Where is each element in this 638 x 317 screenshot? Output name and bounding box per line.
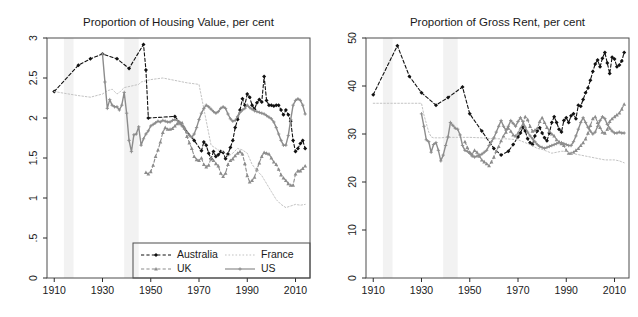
legend-entry-australia[interactable]: Australia xyxy=(141,248,218,260)
x-tick-label: 1930 xyxy=(91,284,115,296)
y-tick-label: 50 xyxy=(346,32,358,44)
chart-legend: AustraliaFranceUKUS xyxy=(133,243,310,278)
shaded-bands xyxy=(383,38,458,278)
y-tick-label: 2.5 xyxy=(27,71,39,86)
y-axis: 0.511.522.53 xyxy=(27,35,47,281)
series-australia xyxy=(371,44,626,157)
y-tick-label: 3 xyxy=(27,35,39,41)
legend-entry-france[interactable]: France xyxy=(225,248,294,260)
shaded-bands xyxy=(64,38,139,278)
series-markers xyxy=(371,44,626,157)
chart-panel-housing-value: Proportion of Housing Value, per cent0.5… xyxy=(0,0,319,317)
x-tick-label: 1930 xyxy=(410,284,434,296)
series-line xyxy=(54,44,305,158)
x-tick-label: 2010 xyxy=(603,284,627,296)
y-tick-label: 20 xyxy=(346,176,358,188)
series-markers xyxy=(463,102,626,167)
plot-frame xyxy=(366,38,629,278)
y-tick-label: 1 xyxy=(27,195,39,201)
y-tick-label: 10 xyxy=(346,224,358,236)
plot-area xyxy=(52,42,307,207)
legend-entry-us[interactable]: US xyxy=(225,262,276,274)
x-tick-label: 1990 xyxy=(555,284,579,296)
figure-container: Proportion of Housing Value, per cent0.5… xyxy=(0,0,638,317)
y-tick-label: 40 xyxy=(346,80,358,92)
series-line xyxy=(54,78,305,208)
plot-area xyxy=(371,44,626,168)
x-axis: 191019301950197019902010 xyxy=(362,278,627,296)
y-tick-label: 1.5 xyxy=(27,151,39,166)
legend-label: US xyxy=(261,262,276,274)
legend-label: France xyxy=(261,248,294,260)
shaded-band-wwi xyxy=(64,38,74,278)
series-france xyxy=(373,103,624,163)
chart-panel-gross-rent: Proportion of Gross Rent, per cent010203… xyxy=(319,0,638,317)
chart-svg-housing-value: Proportion of Housing Value, per cent0.5… xyxy=(0,0,319,317)
x-tick-label: 2010 xyxy=(284,284,308,296)
chart-title: Proportion of Gross Rent, per cent xyxy=(410,16,586,28)
y-axis: 01020304050 xyxy=(346,32,366,281)
chart-svg-gross-rent: Proportion of Gross Rent, per cent010203… xyxy=(319,0,638,317)
y-tick-label: 30 xyxy=(346,128,358,140)
shaded-band-wwii xyxy=(443,38,457,278)
series-uk xyxy=(463,102,626,167)
legend-label: Australia xyxy=(177,248,218,260)
x-tick-label: 1970 xyxy=(187,284,211,296)
x-tick-label: 1990 xyxy=(236,284,260,296)
x-tick-label: 1950 xyxy=(458,284,482,296)
series-line xyxy=(373,103,624,163)
y-tick-label: 0 xyxy=(346,275,358,281)
shaded-band-wwi xyxy=(383,38,393,278)
shaded-band-wwii xyxy=(124,38,138,278)
x-tick-label: 1970 xyxy=(506,284,530,296)
legend-entry-uk[interactable]: UK xyxy=(141,262,192,274)
y-tick-label: .5 xyxy=(27,233,39,242)
series-france xyxy=(54,78,305,208)
chart-title: Proportion of Housing Value, per cent xyxy=(83,16,275,28)
series-australia xyxy=(52,42,307,160)
x-tick-label: 1950 xyxy=(139,284,163,296)
x-axis: 191019301950197019902010 xyxy=(43,278,308,296)
series-line xyxy=(465,104,624,165)
legend-label: UK xyxy=(177,262,192,274)
series-markers xyxy=(52,42,307,160)
y-tick-label: 0 xyxy=(27,275,39,281)
x-tick-label: 1910 xyxy=(362,284,386,296)
y-tick-label: 2 xyxy=(27,115,39,121)
x-tick-label: 1910 xyxy=(43,284,67,296)
